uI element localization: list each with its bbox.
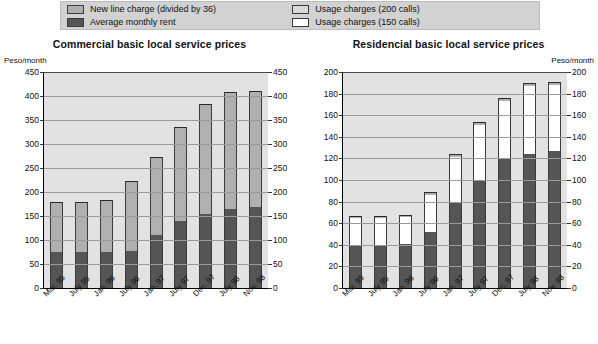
y-axis-tick-mark (268, 96, 272, 97)
y-axis-tick-label: 140 (572, 133, 586, 142)
x-axis-label-slot: Jan. 96 (392, 290, 417, 342)
gridline (343, 72, 567, 73)
stacked-bar[interactable] (125, 72, 138, 288)
y-axis-tick-mark (268, 264, 272, 265)
y-axis-tick-mark (339, 115, 343, 116)
gridline (343, 266, 567, 267)
x-axis-label-slot: July 96 (417, 290, 442, 342)
gridline (343, 202, 567, 203)
legend-label: Average monthly rent (90, 17, 175, 27)
y-axis-tick-label: 300 (25, 140, 39, 149)
y-axis-tick-mark (268, 240, 272, 241)
y-axis-tick-label: 400 (25, 92, 39, 101)
bar-segment (548, 85, 561, 151)
chart-title-residencial: Residencial basic local service prices (299, 38, 598, 50)
y-axis-tick-mark (567, 223, 571, 224)
y-axis-tick-label: 100 (324, 176, 338, 185)
chart-panel-commercial: Commercial basic local service prices Pe… (0, 30, 299, 344)
x-axis-label-slot: July 97 (466, 290, 491, 342)
y-axis-tick-mark (339, 180, 343, 181)
stacked-bar[interactable] (174, 72, 187, 288)
y-axis-tick-mark (268, 216, 272, 217)
stacked-bar[interactable] (75, 72, 88, 288)
bar-segment (399, 217, 412, 244)
x-axis-label-slot: July 95 (367, 290, 392, 342)
y-axis-tick-label: 160 (324, 111, 338, 120)
x-axis-labels-commercial: Mar. 95July 95Jan. 96July 96Jan. 97July … (43, 290, 267, 342)
gridline (44, 72, 268, 73)
y-axis-tick-mark (339, 245, 343, 246)
y-axis-tick-mark (40, 144, 44, 145)
bar-slot (193, 72, 218, 288)
y-axis-tick-mark (268, 168, 272, 169)
gridline (343, 245, 567, 246)
y-axis-tick-mark (40, 240, 44, 241)
white-outline-swatch-icon (292, 18, 309, 27)
x-axis-label-slot: July 95 (68, 290, 93, 342)
y-axis-tick-label: 20 (572, 262, 581, 271)
stacked-bar[interactable] (150, 72, 163, 288)
y-axis-unit-label-commercial: Peso/month (4, 56, 47, 65)
y-axis-tick-label: 0 (273, 284, 278, 293)
bar-slot (243, 72, 268, 288)
y-axis-tick-label: 0 (333, 284, 338, 293)
y-axis-tick-label: 120 (324, 154, 338, 163)
y-axis-tick-label: 20 (329, 262, 338, 271)
y-axis-tick-label: 180 (572, 90, 586, 99)
y-axis-tick-mark (339, 137, 343, 138)
y-axis-tick-label: 40 (572, 241, 581, 250)
x-axis-label-slot: July 98 (217, 290, 242, 342)
gridline (343, 137, 567, 138)
gridline (44, 96, 268, 97)
bar-segment (473, 180, 486, 288)
gridline (44, 240, 268, 241)
x-axis-label-slot: July 96 (118, 290, 143, 342)
y-axis-unit-label-residencial: Peso/month (551, 56, 594, 65)
y-axis-tick-label: 50 (273, 260, 282, 269)
y-axis-tick-mark (567, 94, 571, 95)
y-axis-tick-label: 150 (25, 212, 39, 221)
y-axis-tick-label: 200 (25, 188, 39, 197)
x-axis-label-slot: Nov. 98 (541, 290, 566, 342)
stacked-bar[interactable] (100, 72, 113, 288)
bar-segment (473, 125, 486, 180)
y-axis-tick-mark (567, 158, 571, 159)
x-axis-label-slot: Dec. 97 (491, 290, 516, 342)
bar-segment (75, 202, 88, 252)
gridline (44, 216, 268, 217)
y-axis-tick-mark (567, 288, 571, 289)
y-axis-tick-label: 0 (34, 284, 39, 293)
y-axis-tick-mark (339, 223, 343, 224)
gridline (343, 94, 567, 95)
y-axis-tick-mark (567, 115, 571, 116)
plot-area-residencial: 0020204040606080801001001201201401401601… (342, 72, 567, 289)
gridline (44, 120, 268, 121)
y-axis-tick-label: 50 (30, 260, 39, 269)
stacked-bar[interactable] (199, 72, 212, 288)
stacked-bar[interactable] (249, 72, 262, 288)
bar-segment (349, 218, 362, 245)
bar-group-commercial (44, 72, 268, 288)
y-axis-tick-mark (567, 245, 571, 246)
y-axis-tick-mark (567, 72, 571, 73)
y-axis-tick-mark (268, 288, 272, 289)
gridline (343, 158, 567, 159)
y-axis-tick-mark (40, 72, 44, 73)
x-axis-label-slot: Dec. 97 (192, 290, 217, 342)
bar-slot (168, 72, 193, 288)
bar-slot (119, 72, 144, 288)
y-axis-tick-mark (268, 144, 272, 145)
y-axis-tick-mark (567, 266, 571, 267)
y-axis-tick-mark (567, 180, 571, 181)
legend-label: Usage charges (150 calls) (315, 17, 420, 27)
dark-gray-swatch-icon (67, 18, 84, 27)
stacked-bar[interactable] (50, 72, 63, 288)
y-axis-tick-label: 200 (324, 68, 338, 77)
y-axis-tick-mark (339, 202, 343, 203)
gridline (343, 180, 567, 181)
x-axis-label-slot: Nov. 98 (242, 290, 267, 342)
bar-segment (249, 91, 262, 207)
stacked-bar[interactable] (224, 72, 237, 288)
bar-slot (44, 72, 69, 288)
y-axis-tick-label: 0 (572, 284, 577, 293)
